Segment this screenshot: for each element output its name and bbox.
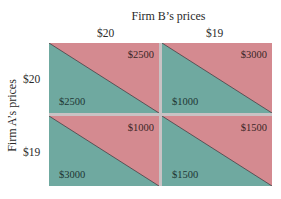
firm-a-payoff: $1000	[172, 96, 198, 107]
firm-a-payoff: $2500	[59, 96, 85, 107]
col-header-20: $20	[97, 27, 114, 39]
payoff-cell: $1000 $3000	[49, 116, 159, 186]
row-header-19: $19	[23, 146, 40, 158]
firm-a-axis-title: Firm A’s prices	[5, 76, 20, 156]
firm-a-payoff: $1500	[172, 169, 198, 180]
payoff-matrix: $2500 $2500 $3000 $1000 $1000 $3000 $150…	[49, 43, 272, 186]
payoff-cell: $3000 $1000	[162, 43, 272, 113]
firm-b-payoff: $3000	[241, 49, 267, 60]
payoff-cell: $2500 $2500	[49, 43, 159, 113]
firm-b-axis-title: Firm B’s prices	[0, 9, 281, 24]
firm-b-payoff: $2500	[128, 49, 154, 60]
firm-b-payoff: $1500	[241, 122, 267, 133]
firm-b-payoff: $1000	[128, 122, 154, 133]
col-header-19: $19	[206, 27, 223, 39]
row-header-20: $20	[23, 73, 40, 85]
firm-a-payoff: $3000	[59, 169, 85, 180]
payoff-cell: $1500 $1500	[162, 116, 272, 186]
